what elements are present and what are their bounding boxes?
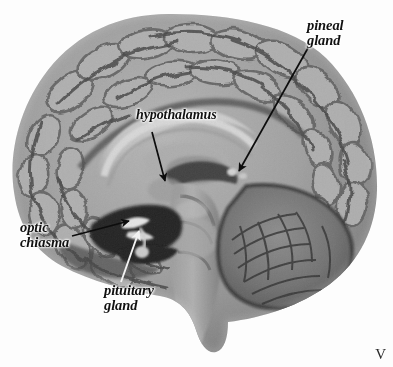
label-optic-chiasma-line2: chiasma: [20, 235, 69, 250]
corner-mark-v: V: [375, 346, 386, 363]
label-hypothalamus: hypothalamus: [136, 108, 217, 122]
label-optic-chiasma: optic chiasma: [20, 220, 69, 250]
leader-line-pituitary: [121, 231, 139, 282]
label-pituitary-gland-line2: gland: [104, 298, 154, 313]
leader-line-hypothalamus: [152, 132, 165, 181]
label-optic-chiasma-line1: optic: [20, 220, 69, 235]
label-hypothalamus-line1: hypothalamus: [136, 108, 217, 122]
label-pituitary-gland-line1: pituitary: [104, 283, 154, 298]
brain-anatomy-figure: pineal gland hypothalamus optic chiasma …: [0, 0, 393, 367]
leader-line-optic-chiasma: [72, 221, 129, 236]
leader-line-pineal: [239, 48, 308, 171]
label-pineal-gland-line2: gland: [307, 33, 343, 48]
label-pituitary-gland: pituitary gland: [104, 283, 154, 313]
label-pineal-gland: pineal gland: [307, 18, 343, 48]
label-pineal-gland-line1: pineal: [307, 18, 343, 33]
label-leader-arrows: [0, 0, 393, 367]
